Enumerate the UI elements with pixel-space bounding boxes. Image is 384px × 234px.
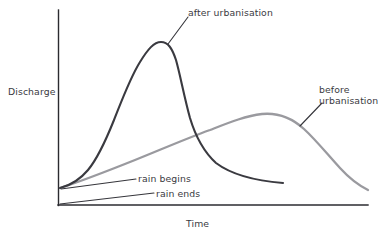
x-axis-label: Time (186, 218, 209, 229)
y-axis-label: Discharge (8, 86, 55, 97)
curve-before-urbanisation (60, 114, 368, 190)
leader-line-rain-ends (60, 193, 154, 204)
annotation-before-urbanisation-line2: urbanisation (319, 95, 378, 106)
annotation-rain-ends: rain ends (156, 188, 200, 199)
annotation-after-urbanisation: after urbanisation (188, 7, 273, 18)
leader-line-after-urbanisation (168, 17, 188, 44)
annotation-rain-begins: rain begins (138, 173, 191, 184)
hydrograph-figure: Discharge Time after urbanisation before… (0, 0, 384, 234)
annotation-before-urbanisation: before urbanisation (319, 84, 381, 107)
curve-after-urbanisation (60, 42, 283, 188)
annotation-before-urbanisation-line1: before (319, 84, 350, 95)
